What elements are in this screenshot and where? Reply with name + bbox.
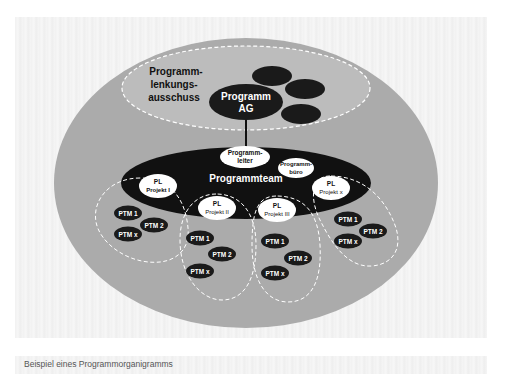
ptm-label: PTM 2	[144, 222, 164, 229]
ptm-label: PTM x	[338, 238, 358, 245]
ptm-label: PTM 2	[288, 255, 308, 262]
pl-project-1-label-2: Projekt I	[146, 187, 170, 193]
program-ag-label-2: AG	[239, 103, 254, 114]
ptm-label: PTM 1	[265, 238, 285, 245]
program-ag-label-1: Programm	[221, 91, 271, 102]
steering-committee-label-3: ausschuss	[148, 92, 200, 103]
ptm-label: PTM x	[190, 268, 210, 275]
pl-project-3-label-1: PL	[273, 202, 281, 209]
pl-project-2-label-1: PL	[213, 200, 221, 207]
figure-caption: Beispiel eines Programmorganigramms	[24, 359, 173, 369]
program-office-label-2: büro	[289, 169, 303, 175]
ptm-label: PTM 1	[190, 235, 210, 242]
committee-member-node	[285, 79, 325, 99]
pl-project-x-label-2: Projekt x	[319, 189, 342, 195]
committee-member-node	[252, 66, 292, 86]
program-ag-node	[209, 84, 283, 120]
steering-committee-label-2: lenkungs-	[150, 79, 197, 90]
pl-project-1-label-1: PL	[154, 178, 162, 185]
ptm-label: PTM 1	[118, 210, 138, 217]
ptm-label: PTM x	[118, 231, 138, 238]
program-leader-label-1: Programm-	[228, 149, 263, 157]
org-chart: Programm- lenkungs- ausschuss Programm A…	[0, 0, 506, 391]
committee-member-node	[281, 104, 321, 124]
ptm-label: PTM 1	[338, 216, 358, 223]
program-leader-label-2: leiter	[237, 157, 253, 164]
pl-project-x-label-1: PL	[327, 180, 335, 187]
pl-project-2-label-2: Projekt II	[205, 209, 229, 215]
ptm-label: PTM x	[265, 270, 285, 277]
program-team-label: Programmteam	[209, 173, 282, 184]
ptm-label: PTM 2	[212, 251, 232, 258]
program-office-label-1: Programm-	[280, 161, 312, 167]
steering-committee-label-1: Programm-	[149, 66, 202, 77]
pl-project-3-label-2: Projekt III	[264, 211, 290, 217]
ptm-label: PTM 2	[363, 228, 383, 235]
